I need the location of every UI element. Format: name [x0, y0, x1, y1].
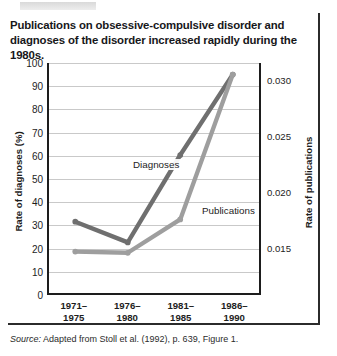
- x-category-label: 1976–1980: [114, 300, 141, 324]
- x-category-label: 1986–1990: [221, 300, 248, 324]
- y-tick-label-right: 0.020: [267, 186, 291, 197]
- plot-area: [47, 63, 261, 295]
- y-tick-label-left: 80: [32, 104, 43, 115]
- data-point: [125, 250, 131, 256]
- data-point: [72, 219, 78, 225]
- y-tick-label-left: 0: [37, 290, 43, 301]
- y-axis-right-title: Rate of publications: [303, 118, 314, 248]
- x-category-label: 1971–1975: [60, 300, 87, 324]
- y-tick-label-right: 0.025: [267, 130, 291, 141]
- y-tick-label-left: 40: [32, 197, 43, 208]
- series-label-publications: Publications: [200, 205, 257, 216]
- data-point: [177, 217, 183, 223]
- series-label-diagnoses: Diagnoses: [131, 159, 181, 170]
- y-tick-label-left: 100: [26, 58, 43, 69]
- y-tick-label-left: 50: [32, 174, 43, 185]
- data-point: [125, 240, 131, 246]
- y-tick-label-right: 0.030: [267, 74, 291, 85]
- x-category-label: 1981–1985: [167, 300, 194, 324]
- page-edge-artifact: [20, 2, 96, 10]
- x-axis-categories: 1971–19751976–19801981–19851986–1990: [47, 300, 261, 330]
- y-tick-label-left: 90: [32, 81, 43, 92]
- source-text: Adapted from Stoll et al. (1992), p. 639…: [43, 334, 238, 344]
- y-tick-label-left: 30: [32, 220, 43, 231]
- source-label: Source:: [10, 334, 41, 344]
- y-tick-label-left: 20: [32, 243, 43, 254]
- data-point: [72, 249, 78, 255]
- y-tick-label-left: 60: [32, 150, 43, 161]
- y-tick-label-left: 70: [32, 127, 43, 138]
- series-lines: [49, 63, 259, 293]
- figure-title: Publications on obsessive-compulsive dis…: [10, 18, 320, 63]
- data-point: [177, 152, 183, 158]
- y-tick-label-right: 0.015: [267, 242, 291, 253]
- y-tick-label-left: 10: [32, 266, 43, 277]
- source-note: Source: Adapted from Stoll et al. (1992)…: [10, 334, 330, 344]
- data-point: [230, 72, 236, 78]
- y-axis-left-title: Rate of diagnoses (%): [13, 117, 24, 247]
